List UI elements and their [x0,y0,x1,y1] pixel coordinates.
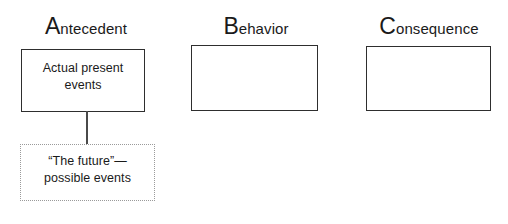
column-heading-behavior-rest: ehavior [239,20,289,37]
column-heading-antecedent-rest: ntecedent [60,20,127,37]
antecedent-box-text: Actual present events [22,60,144,94]
column-heading-consequence: Consequence [379,15,478,38]
connector-line-antecedent-to-future [86,111,88,145]
behavior-box [191,45,318,111]
future-possible-events-box: “The future”— possible events [20,144,155,201]
consequence-box [366,46,491,111]
dropcap-letter-b: B [223,13,238,39]
dropcap-letter-c: C [379,13,396,39]
future-possible-events-box-text: “The future”— possible events [21,153,154,187]
column-heading-antecedent: Antecedent [45,15,127,38]
antecedent-box: Actual present events [21,49,145,112]
dropcap-letter-a: A [45,13,60,39]
abc-model-diagram: Antecedent Behavior Consequence Actual p… [0,0,508,224]
column-heading-behavior: Behavior [223,15,288,38]
column-heading-consequence-rest: onsequence [396,20,479,37]
